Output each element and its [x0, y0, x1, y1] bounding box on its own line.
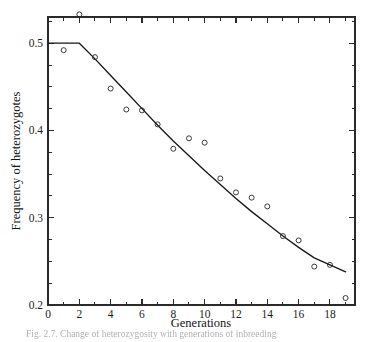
x-tick-label: 16 [293, 308, 305, 320]
x-tick-label: 14 [262, 308, 274, 320]
fitted-curve [48, 43, 346, 272]
plot-frame [48, 17, 355, 305]
figure-caption-text: Fig. 2.7. Change of heterozygosity with … [26, 330, 366, 340]
y-axis-title: Frequency of heterozygotes [9, 91, 23, 230]
x-tick-label: 0 [45, 308, 51, 320]
y-axis-minor-ticks [48, 21, 355, 283]
data-point [312, 264, 317, 269]
x-axis-major-ticks [48, 17, 330, 305]
x-tick-label: 6 [139, 308, 145, 320]
x-tick-label: 18 [324, 308, 336, 320]
data-point [218, 176, 223, 181]
data-point [233, 190, 238, 195]
data-point [77, 12, 82, 17]
y-axis-tick-labels: 0.20.30.40.5 [29, 37, 44, 311]
heterozygosity-scatter-chart: 0.20.30.40.5 024681012141618 Generations… [0, 0, 376, 342]
data-point [249, 195, 254, 200]
y-tick-label: 0.2 [29, 299, 44, 311]
y-tick-label: 0.3 [29, 212, 44, 224]
x-tick-label: 2 [76, 308, 82, 320]
x-axis-title: Generations [171, 316, 232, 330]
data-point [296, 238, 301, 243]
data-point [202, 140, 207, 145]
data-point [343, 296, 348, 301]
x-axis-minor-ticks [64, 17, 346, 305]
data-point [171, 146, 176, 151]
data-point [265, 204, 270, 209]
data-point [186, 136, 191, 141]
x-tick-label: 12 [230, 308, 242, 320]
figure-container: 0.20.30.40.5 024681012141618 Generations… [0, 0, 376, 342]
figure-caption: Fig. 2.7. Change of heterozygosity with … [0, 330, 376, 342]
y-tick-label: 0.5 [29, 37, 44, 49]
y-tick-label: 0.4 [29, 124, 44, 136]
data-point-group [61, 12, 348, 301]
data-point [61, 48, 66, 53]
x-tick-label: 4 [108, 308, 114, 320]
data-point [124, 107, 129, 112]
y-axis-major-ticks [48, 43, 355, 305]
data-point [108, 86, 113, 91]
